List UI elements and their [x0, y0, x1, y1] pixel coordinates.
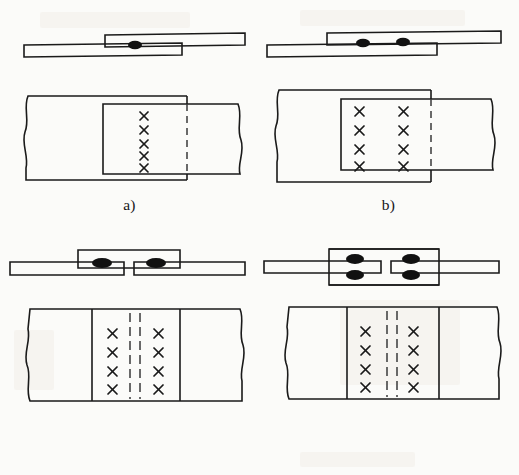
fastener-head-elevation: [402, 270, 420, 280]
fastener-mark: [154, 385, 163, 394]
main-plate-band-plan: [285, 307, 501, 399]
rear-plate-plan: [275, 90, 431, 182]
fastener-mark: [355, 126, 364, 135]
panel-b: b): [259, 0, 518, 237]
upper-plate-elevation: [105, 33, 245, 47]
fastener-mark: [361, 365, 370, 374]
cover-plates-elevation: [329, 249, 439, 285]
fastener-mark: [140, 112, 148, 120]
fastener-mark: [154, 367, 163, 376]
panel-a: a): [0, 0, 259, 237]
fastener-mark: [399, 126, 408, 135]
fastener-mark: [140, 164, 148, 172]
fastener-mark: [409, 327, 418, 336]
fastener-head-elevation: [346, 270, 364, 280]
fastener-mark: [399, 107, 408, 116]
fastener-mark: [409, 383, 418, 392]
fastener-head-elevation: [346, 254, 364, 264]
fastener-mark-group: [108, 329, 163, 394]
fastener-mark: [108, 329, 117, 338]
fastener-mark: [409, 346, 418, 355]
panel-a-caption: a): [0, 196, 259, 214]
fastener-mark: [140, 126, 148, 134]
rear-plate-plan: [24, 96, 187, 180]
fastener-mark-group: [355, 107, 408, 171]
fastener-mark: [355, 145, 364, 154]
fastener-mark: [361, 346, 370, 355]
front-plate-plan: [103, 104, 242, 174]
panel-d-drawing: [259, 237, 518, 474]
fastener-mark: [108, 367, 117, 376]
figure-root: a): [0, 0, 519, 475]
fastener-mark: [140, 152, 148, 160]
panel-b-caption: b): [259, 196, 518, 214]
fastener-head-elevation: [396, 38, 410, 46]
fastener-head-elevation: [402, 254, 420, 264]
fastener-mark: [361, 327, 370, 336]
lower-plate-elevation: [24, 43, 182, 57]
left-main-plate-elevation: [264, 261, 381, 273]
fastener-mark: [140, 140, 148, 148]
fastener-mark-group: [140, 112, 148, 172]
fastener-head-elevation: [356, 39, 370, 47]
fastener-mark: [399, 145, 408, 154]
panel-c-drawing: [0, 237, 259, 474]
fastener-head-elevation: [128, 41, 142, 49]
fastener-mark-group: [361, 327, 418, 392]
main-plate-band-plan: [26, 309, 244, 401]
fastener-mark: [355, 107, 364, 116]
fastener-mark: [108, 385, 117, 394]
fastener-head-elevation: [146, 258, 166, 268]
fastener-mark: [409, 365, 418, 374]
fastener-mark: [361, 383, 370, 392]
panel-d: d): [259, 237, 518, 474]
fastener-mark: [154, 329, 163, 338]
fastener-mark: [154, 348, 163, 357]
panel-c: c): [0, 237, 259, 474]
fastener-mark: [108, 348, 117, 357]
fastener-head-elevation: [92, 258, 112, 268]
